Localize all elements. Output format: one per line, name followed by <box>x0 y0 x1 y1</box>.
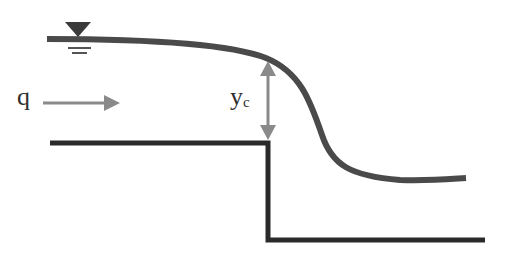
diagram-svg <box>0 0 509 256</box>
channel-bed <box>50 143 485 240</box>
flow-direction-arrow-icon <box>43 95 120 111</box>
critical-depth-symbol: y <box>230 82 243 111</box>
discharge-label: q <box>17 82 30 112</box>
critical-depth-label: yc <box>230 82 250 112</box>
water-surface-profile <box>47 39 466 180</box>
discharge-symbol: q <box>17 82 30 111</box>
diagram-canvas: q yc <box>0 0 509 256</box>
critical-depth-subscript: c <box>243 94 250 110</box>
critical-depth-arrow-icon <box>260 61 276 140</box>
